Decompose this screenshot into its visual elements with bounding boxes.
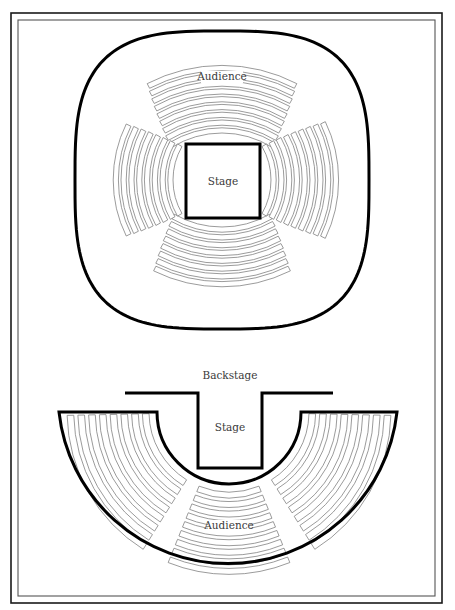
backstage-label: Backstage — [202, 369, 257, 381]
theatre-layouts-diagram: Audience Stage Backstage Stage Audience — [0, 0, 455, 610]
thrust-audience-label: Audience — [203, 519, 254, 531]
arena-theatre: Audience Stage — [75, 31, 369, 329]
arena-stage-label: Stage — [208, 175, 239, 187]
thrust-seat-row-center — [197, 486, 261, 498]
arena-audience-label: Audience — [196, 70, 247, 82]
thrust-seating — [67, 414, 391, 575]
thrust-stage-label: Stage — [215, 421, 246, 433]
thrust-theatre: Backstage Stage Audience — [59, 369, 397, 574]
